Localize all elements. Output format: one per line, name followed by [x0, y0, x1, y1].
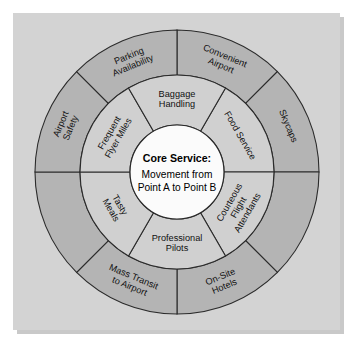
- ring-wheel-svg: ConvenientAirportSkycapsOn-SiteHotelsMas…: [0, 0, 356, 342]
- core-service-title: Core Service:: [143, 152, 211, 164]
- inner-ring-label-baggage-handling: BaggageHandling: [159, 89, 196, 109]
- label-line: Baggage: [159, 89, 196, 99]
- service-wheel-diagram: ConvenientAirportSkycapsOn-SiteHotelsMas…: [0, 0, 356, 342]
- core-service-line: Movement from: [142, 169, 213, 180]
- core-circle-group: Core Service:Movement fromPoint A to Poi…: [130, 125, 224, 219]
- label-line: Handling: [159, 100, 195, 110]
- label-line: Professional: [152, 233, 203, 243]
- core-service-line: Point A to Point B: [138, 182, 217, 193]
- label-line: Pilots: [166, 244, 189, 254]
